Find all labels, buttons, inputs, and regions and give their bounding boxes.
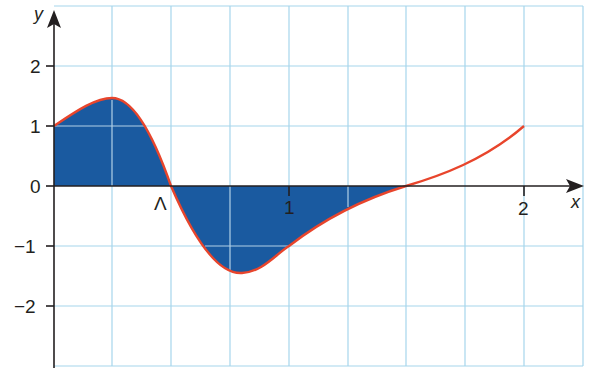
x-axis-name: x (570, 192, 581, 212)
y-tick-2: 2 (30, 56, 41, 77)
y-tick-minus-2: −2 (14, 296, 36, 317)
y-tick-minus-1: −1 (14, 236, 36, 257)
y-tick-0: 0 (30, 176, 41, 197)
function-area-chart: y x 2 1 0 −1 −2 Λ 1 2 (0, 0, 590, 377)
x-tick-2: 2 (518, 198, 529, 219)
y-axis-name: y (32, 4, 44, 24)
x-tick-1: 1 (284, 197, 295, 218)
x-tick-a: Λ (154, 193, 167, 214)
y-tick-1: 1 (30, 116, 41, 137)
